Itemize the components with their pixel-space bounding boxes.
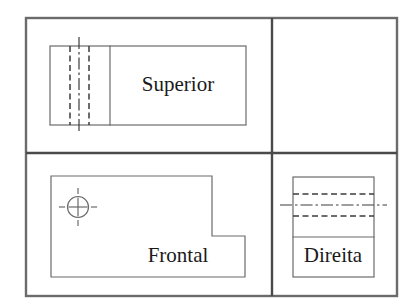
frontal-view-label: Frontal <box>148 243 209 267</box>
view-direita: Direita <box>280 177 387 277</box>
technical-drawing-container: SuperiorFrontalDireita <box>0 0 418 306</box>
direita-view-label: Direita <box>304 243 363 267</box>
view-superior: Superior <box>50 37 246 134</box>
view-frontal: Frontal <box>51 176 245 277</box>
superior-view-label: Superior <box>142 72 214 96</box>
orthographic-drawing-canvas: SuperiorFrontalDireita <box>0 0 418 306</box>
